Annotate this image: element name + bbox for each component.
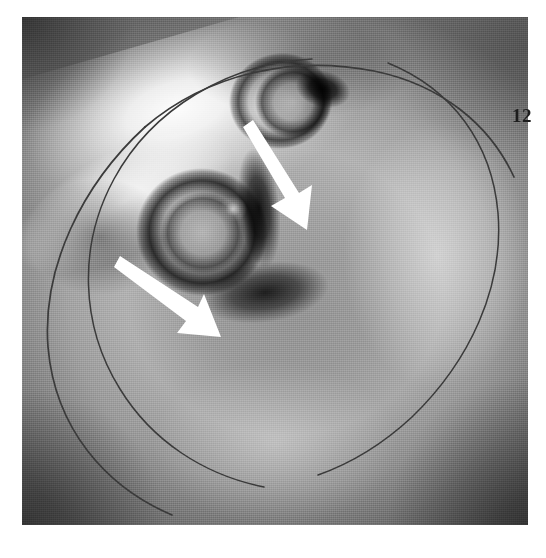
- scale-marker-label: 12: [512, 106, 546, 125]
- outer-reference-arc-right: [145, 65, 514, 177]
- outer-reference-arc: [47, 127, 172, 515]
- inner-reference-arc-left: [88, 59, 312, 487]
- arrow-lower: [114, 256, 221, 337]
- image-plate: [22, 17, 528, 525]
- inner-reference-arc-right: [318, 63, 499, 475]
- figure-root: 12: [0, 0, 546, 558]
- arrow-upper: [243, 120, 312, 230]
- annotation-overlay: [22, 17, 528, 525]
